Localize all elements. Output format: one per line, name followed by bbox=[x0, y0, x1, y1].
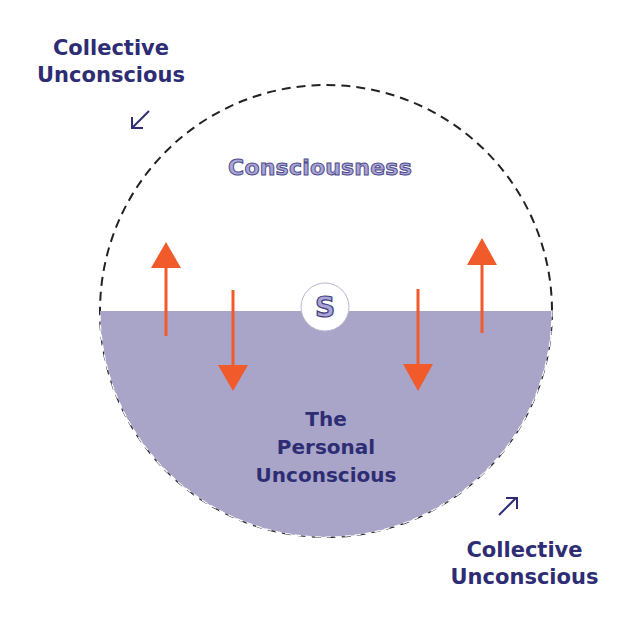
collective-unconscious-label-bottom: Collective Unconscious bbox=[437, 537, 612, 591]
label-line: Personal bbox=[236, 433, 416, 461]
label-line: Unconscious bbox=[437, 564, 612, 591]
label-line: Unconscious bbox=[26, 62, 196, 89]
pointer-arrow-up-right-icon bbox=[499, 498, 517, 515]
label-line: Unconscious bbox=[236, 461, 416, 489]
self-letter: S bbox=[315, 291, 335, 324]
collective-unconscious-label-top: Collective Unconscious bbox=[26, 35, 196, 89]
pointer-arrow-down-left-icon bbox=[132, 111, 149, 128]
personal-unconscious-label: The Personal Unconscious bbox=[236, 405, 416, 489]
psyche-diagram: S bbox=[0, 0, 625, 625]
consciousness-label: Consciousness bbox=[215, 155, 425, 180]
label-line: Collective bbox=[26, 35, 196, 62]
label-line: Collective bbox=[437, 537, 612, 564]
label-line: The bbox=[236, 405, 416, 433]
